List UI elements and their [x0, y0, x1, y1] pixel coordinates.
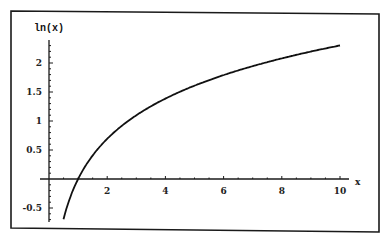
- x-tick-label: 10: [334, 186, 347, 196]
- x-axis-label: x: [355, 177, 361, 187]
- y-tick-label: 2: [36, 58, 42, 68]
- ticks: [49, 46, 340, 220]
- y-tick-label: 1.5: [26, 87, 42, 97]
- y-axis-label: ln(x): [34, 23, 64, 34]
- x-tick-label: 6: [220, 186, 226, 196]
- axes: [40, 40, 349, 222]
- tick-labels: 246810-0.50.511.52: [23, 58, 347, 213]
- plot-frame: [11, 11, 379, 232]
- x-tick-label: 8: [279, 186, 285, 196]
- x-tick-label: 2: [104, 186, 110, 196]
- x-tick-label: 4: [162, 186, 168, 196]
- y-tick-label: -0.5: [23, 203, 42, 213]
- ln-plot: 246810-0.50.511.52 ln(x) x: [0, 0, 387, 242]
- y-tick-label: 0.5: [26, 145, 42, 155]
- y-tick-label: 1: [36, 116, 42, 126]
